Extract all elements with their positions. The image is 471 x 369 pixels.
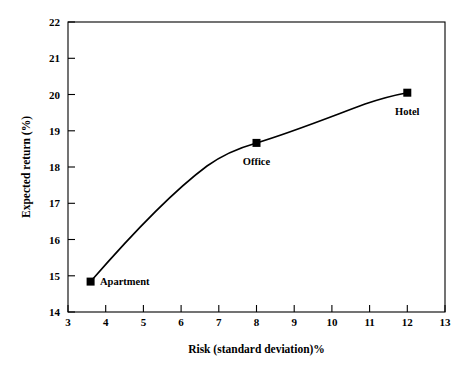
x-tick-label-6: 9: [291, 316, 297, 328]
y-axis-ticks: [68, 22, 75, 312]
y-tick-label-5: 19: [49, 125, 61, 137]
y-axis-title: Expected return (%): [20, 116, 33, 218]
chart-page: 3 4 5 6 7 8 9 10 11 12 13 14 15: [0, 0, 471, 369]
point-label-office: Office: [243, 156, 271, 167]
data-markers: [87, 89, 412, 286]
x-tick-label-3: 6: [178, 316, 184, 328]
point-label-hotel: Hotel: [395, 106, 420, 117]
y-tick-label-3: 17: [49, 197, 61, 209]
x-axis-ticks: [68, 305, 445, 312]
y-tick-label-8: 22: [49, 16, 61, 28]
x-tick-label-0: 3: [65, 316, 71, 328]
x-tick-label-5: 8: [254, 316, 260, 328]
x-tick-label-10: 13: [440, 316, 452, 328]
x-tick-label-7: 10: [326, 316, 338, 328]
x-tick-label-2: 5: [141, 316, 147, 328]
y-tick-label-0: 14: [49, 306, 61, 318]
x-tick-label-4: 7: [216, 316, 222, 328]
data-point-hotel[interactable]: [403, 89, 411, 97]
y-axis-tick-labels: 14 15 16 17 18 19 20 21 22: [49, 16, 61, 318]
y-tick-label-4: 18: [49, 161, 61, 173]
x-axis-tick-labels: 3 4 5 6 7 8 9 10 11 12 13: [65, 316, 451, 328]
y-tick-label-1: 15: [49, 270, 61, 282]
x-axis-title: Risk (standard deviation)%: [188, 343, 325, 356]
point-label-apartment: Apartment: [100, 276, 150, 287]
risk-return-chart: 3 4 5 6 7 8 9 10 11 12 13 14 15: [0, 0, 471, 369]
plot-frame: [68, 22, 445, 312]
y-tick-label-7: 21: [49, 52, 60, 64]
data-point-apartment[interactable]: [87, 278, 95, 286]
x-tick-label-9: 12: [402, 316, 414, 328]
x-tick-label-1: 4: [103, 316, 109, 328]
x-tick-label-8: 11: [364, 316, 374, 328]
risk-return-curve-main: [91, 93, 408, 282]
y-tick-label-2: 16: [49, 234, 61, 246]
data-point-office[interactable]: [253, 139, 261, 147]
y-tick-label-6: 20: [49, 89, 61, 101]
